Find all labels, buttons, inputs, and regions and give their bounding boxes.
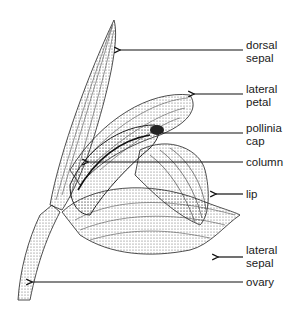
label-lateral-sepal: lateral sepal — [246, 244, 277, 270]
label-pollinia-cap: pollinia cap — [246, 122, 282, 148]
label-line: lip — [246, 188, 258, 201]
label-column: column — [246, 156, 283, 169]
label-line: dorsal — [246, 39, 277, 52]
label-lateral-petal: lateral petal — [246, 83, 277, 109]
label-line: pollinia — [246, 122, 282, 135]
label-ovary: ovary — [246, 276, 274, 289]
pollinia-cap-shape — [150, 125, 164, 135]
label-line: petal — [246, 96, 277, 109]
label-line: ovary — [246, 276, 274, 289]
label-line: lateral — [246, 244, 277, 257]
lateral-sepal-shape — [62, 188, 240, 254]
label-line: column — [246, 156, 283, 169]
label-dorsal-sepal: dorsal sepal — [246, 39, 277, 65]
label-lip: lip — [246, 188, 258, 201]
ovary-shape — [18, 205, 60, 300]
label-line: cap — [246, 135, 282, 148]
label-line: sepal — [246, 257, 277, 270]
label-line: lateral — [246, 83, 277, 96]
label-line: sepal — [246, 52, 277, 65]
